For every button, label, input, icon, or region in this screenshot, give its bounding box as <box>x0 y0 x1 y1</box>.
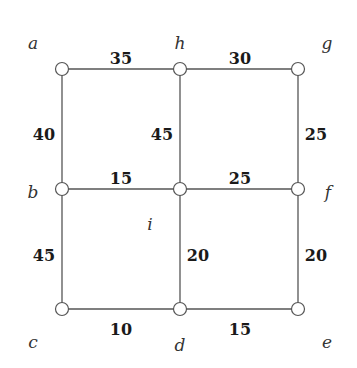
vertex-label-g: g <box>322 33 333 53</box>
vertex-label-c: c <box>28 332 38 352</box>
vertex-label-b: b <box>28 182 39 202</box>
edge-weight-b-c: 45 <box>33 246 55 265</box>
edge-weight-h-i: 45 <box>151 125 173 144</box>
edge-weight-a-h: 35 <box>110 49 132 68</box>
node-b <box>56 183 69 196</box>
edge-weight-f-e: 20 <box>305 246 327 265</box>
edge-weight-b-i: 15 <box>110 169 132 188</box>
vertex-label-h: h <box>175 33 186 53</box>
edge-weight-a-b: 40 <box>33 125 55 144</box>
node-h <box>174 63 187 76</box>
node-d <box>174 303 187 316</box>
vertex-label-e: e <box>322 332 332 352</box>
node-g <box>292 63 305 76</box>
vertex-label-a: a <box>28 33 38 53</box>
node-c <box>56 303 69 316</box>
node-e <box>292 303 305 316</box>
edge-weight-c-d: 10 <box>110 320 132 339</box>
vertex-label-d: d <box>175 335 186 355</box>
edge-weight-g-f: 25 <box>305 125 327 144</box>
edge-weight-h-g: 30 <box>229 49 251 68</box>
node-f <box>292 183 305 196</box>
edge-weight-i-d: 20 <box>187 246 209 265</box>
edge-weight-i-f: 25 <box>229 169 251 188</box>
node-a <box>56 63 69 76</box>
edge-weight-d-e: 15 <box>229 320 251 339</box>
vertex-label-i: i <box>147 214 152 234</box>
weighted-grid-graph: 353040452515254520201015 ahgbifcde <box>0 0 357 368</box>
node-i <box>174 183 187 196</box>
vertex-label-f: f <box>323 182 334 202</box>
